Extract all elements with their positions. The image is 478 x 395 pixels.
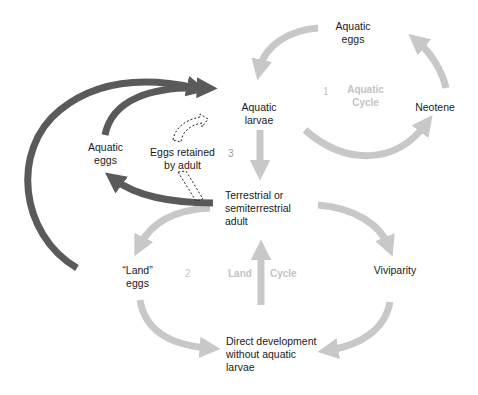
cycle-number-3: 3: [228, 148, 234, 159]
arrow-neotene-to-eggs: [418, 42, 446, 88]
aquatic-cycle-label: Aquatic Cycle: [343, 83, 388, 109]
land-cycle-label-cycle: Cycle: [270, 268, 297, 279]
node-viviparity: Viviparity: [365, 264, 425, 277]
cycle-number-2: 2: [185, 268, 191, 279]
arrow-adult-to-land-eggs: [140, 208, 210, 245]
node-land-eggs: “Land” eggs: [110, 264, 165, 290]
arrow-larvae-to-neotene: [305, 125, 425, 156]
land-cycle-label-land: Land: [228, 268, 252, 279]
arrow-adult-to-aquatic-eggs: [115, 180, 213, 203]
arrow-eggs-to-larvae: [260, 28, 318, 68]
dashed-arrow-retained-to-larvae: [173, 114, 208, 142]
node-terrestrial-adult: Terrestrial or semiterrestrial adult: [225, 189, 325, 228]
dashed-arrow-adult-to-retained: [178, 171, 203, 201]
node-aquatic-larvae: Aquatic larvae: [228, 101, 290, 127]
node-aquatic-eggs-top: Aquatic eggs: [318, 20, 388, 46]
arrow-adult-to-viviparity: [318, 205, 388, 245]
node-direct-development: Direct development without aquatic larva…: [226, 335, 346, 374]
node-eggs-retained: Eggs retained by adult: [140, 146, 225, 172]
node-aquatic-eggs-left: Aquatic eggs: [78, 141, 133, 167]
arrow-land-eggs-to-direct: [140, 300, 208, 348]
node-neotene: Neotene: [405, 101, 465, 114]
cycle-number-1: 1: [323, 86, 329, 97]
